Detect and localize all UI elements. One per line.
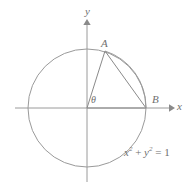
segment-chord-A-to-B [105, 51, 146, 108]
equation-equals: = [153, 146, 165, 158]
equation-plus: + [132, 146, 144, 158]
equation-value: 1 [164, 146, 170, 158]
x-axis-label: x [177, 101, 182, 112]
angle-theta-label: θ [91, 95, 96, 105]
point-label-B: B [152, 94, 159, 105]
y-axis-label: y [85, 6, 90, 17]
unit-circle-figure: A B x y θ x2 + y2 = 1 [0, 0, 190, 188]
point-label-A: A [101, 38, 108, 49]
segment-origin-to-A [87, 51, 105, 108]
y-axis-arrowhead-icon [83, 19, 90, 25]
x-axis-arrowhead-icon [169, 104, 175, 112]
circle-equation-label: x2 + y2 = 1 [124, 147, 170, 158]
